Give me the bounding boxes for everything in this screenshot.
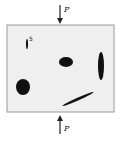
slit-label: 5 bbox=[29, 35, 33, 42]
plate-diagram: P 5 P bbox=[0, 0, 122, 142]
top-load-label: P bbox=[63, 5, 70, 14]
bottom-load-arrow-icon bbox=[57, 115, 63, 134]
top-load-arrow-icon bbox=[57, 5, 63, 24]
lower-left-ellipse-hole bbox=[16, 79, 30, 95]
bottom-load-label: P bbox=[63, 124, 70, 133]
center-ellipse-hole bbox=[59, 57, 73, 67]
plate bbox=[7, 25, 114, 112]
small-slit bbox=[26, 39, 28, 49]
vertical-ellipse-hole bbox=[98, 52, 104, 80]
